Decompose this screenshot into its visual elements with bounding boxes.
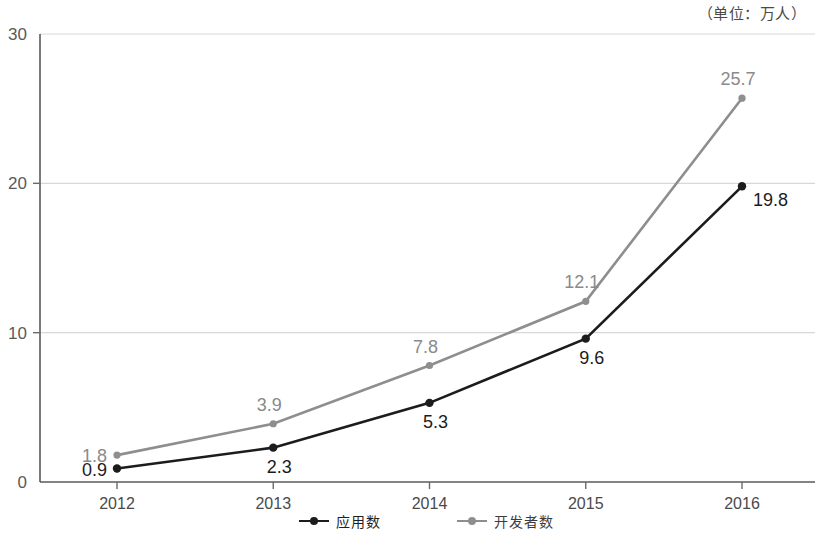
data-label-apps-2014: 5.3 xyxy=(423,412,448,432)
y-tick-label-20: 20 xyxy=(8,174,27,193)
data-point-apps-2014 xyxy=(425,399,433,407)
gridline-group xyxy=(40,34,815,333)
legend-item-label: 开发者数 xyxy=(494,511,554,531)
data-point-developers-2013 xyxy=(270,420,277,427)
line-marker-icon-developers xyxy=(457,515,487,527)
data-point-developers-2015 xyxy=(582,298,589,305)
y-tick-label-10: 10 xyxy=(8,324,27,343)
data-label-developers-2013: 3.9 xyxy=(257,395,282,415)
data-label-group: 0.92.35.39.619.81.83.97.812.125.7 xyxy=(82,69,788,479)
data-label-developers-2015: 12.1 xyxy=(564,272,599,292)
y-tick-label-30: 30 xyxy=(8,25,27,44)
data-label-apps-2015: 9.6 xyxy=(579,348,604,368)
x-tick-label-2016: 2016 xyxy=(724,495,760,510)
legend-item-developers[interactable]: 开发者数 xyxy=(457,511,554,531)
x-tick-label-2014: 2014 xyxy=(412,495,448,510)
data-point-developers-2014 xyxy=(426,362,433,369)
y-tick-label-0: 0 xyxy=(18,473,27,492)
x-tick-group: 20122013201420152016 xyxy=(99,482,760,510)
data-point-apps-2015 xyxy=(582,334,590,342)
x-tick-label-2013: 2013 xyxy=(255,495,291,510)
x-tick-label-2012: 2012 xyxy=(99,495,135,510)
data-point-apps-2013 xyxy=(269,443,277,451)
y-tick-group: 0102030 xyxy=(8,25,40,492)
data-point-apps-2016 xyxy=(738,182,746,190)
data-label-apps-2016: 19.8 xyxy=(753,190,788,210)
data-point-developers-2016 xyxy=(738,95,745,102)
data-label-developers-2016: 25.7 xyxy=(720,69,755,89)
data-point-apps-2012 xyxy=(113,464,121,472)
plot-area: 0102030 20122013201420152016 0.92.35.39.… xyxy=(0,0,822,510)
legend-item-apps[interactable]: 应用数 xyxy=(299,511,381,531)
line-marker-icon-apps xyxy=(299,515,329,527)
line-chart-figure: （单位：万人） 0102030 20122013201420152016 0.9… xyxy=(0,0,822,537)
data-label-developers-2014: 7.8 xyxy=(413,337,438,357)
x-tick-label-2015: 2015 xyxy=(568,495,604,510)
data-label-developers-2012: 1.8 xyxy=(82,446,107,466)
legend-item-label: 应用数 xyxy=(336,511,381,531)
data-label-apps-2013: 2.3 xyxy=(267,457,292,477)
data-point-developers-2012 xyxy=(113,452,120,459)
chart-legend: 应用数 开发者数 xyxy=(0,511,822,531)
